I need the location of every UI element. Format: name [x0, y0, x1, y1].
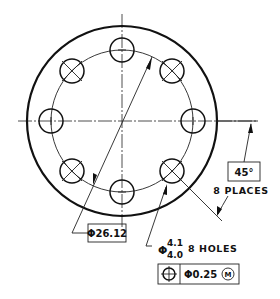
bolt-circle-dimension-text: Φ26.12: [87, 228, 127, 239]
svg-text:M: M: [225, 271, 232, 279]
hole-diameter-symbol: Φ: [158, 244, 167, 257]
angle-note: 8 PLACES: [213, 185, 268, 196]
feature-control-frame: Φ0.25 M: [158, 264, 239, 284]
hole-upper-right: [160, 59, 184, 83]
hole-lower-limit: 4.0: [167, 250, 183, 260]
hole-upper-left: [60, 59, 84, 83]
arrowhead-icon: [163, 184, 167, 195]
arrowhead-icon: [146, 57, 152, 70]
flange-drawing: Φ26.12 45° 8 PLACES Φ 4.1 4.0 8 HOLES Φ0…: [0, 0, 280, 299]
position-tolerance: Φ0.25: [184, 269, 217, 280]
bolt-circle-dimension-line: [72, 57, 152, 233]
angle-value: 45°: [235, 167, 254, 178]
hole-count-note: 8 HOLES: [188, 243, 238, 254]
hole-upper-limit: 4.1: [167, 238, 183, 248]
hole-lower-left: [60, 159, 84, 183]
mmc-modifier-icon: M: [222, 268, 234, 280]
position-icon: [161, 266, 177, 282]
hole-callout-leader: [146, 184, 167, 246]
